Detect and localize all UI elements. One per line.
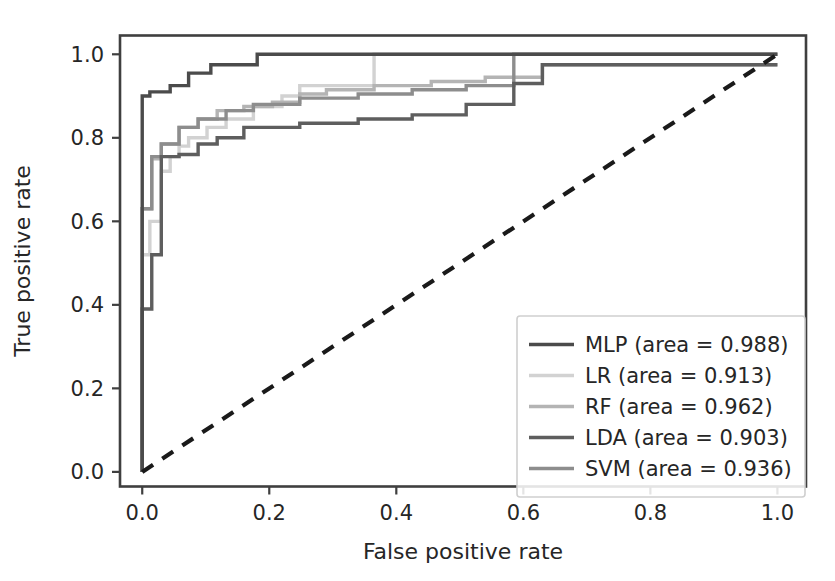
roc-plot-svg: 0.00.20.40.60.81.0 0.00.20.40.60.81.0 Fa… <box>0 0 835 581</box>
y-tick-label: 0.4 <box>71 293 104 317</box>
x-axis-title: False positive rate <box>363 539 563 564</box>
x-tick-label: 0.0 <box>126 501 159 525</box>
legend-label: LR (area = 0.913) <box>585 364 772 388</box>
legend[interactable]: MLP (area = 0.988)LR (area = 0.913)RF (a… <box>517 316 805 497</box>
x-tick-label: 0.2 <box>253 501 286 525</box>
x-tick-label: 0.8 <box>634 501 667 525</box>
x-tick-label: 1.0 <box>761 501 794 525</box>
y-tick-label: 0.2 <box>71 377 104 401</box>
legend-label: LDA (area = 0.903) <box>585 426 788 450</box>
roc-curve-figure: 0.00.20.40.60.81.0 0.00.20.40.60.81.0 Fa… <box>0 0 835 581</box>
x-tick-label: 0.6 <box>507 501 540 525</box>
y-tick-label: 0.0 <box>71 460 104 484</box>
y-tick-label: 1.0 <box>71 43 104 67</box>
x-tick-label: 0.4 <box>380 501 413 525</box>
y-tick-label: 0.6 <box>71 210 104 234</box>
y-axis-title-group: True positive rate <box>10 165 35 358</box>
y-axis-title: True positive rate <box>10 165 35 358</box>
y-tick-label: 0.8 <box>71 126 104 150</box>
legend-label: RF (area = 0.962) <box>585 395 773 419</box>
x-axis-title-group: False positive rate <box>363 539 563 564</box>
legend-label: SVM (area = 0.936) <box>585 457 792 481</box>
legend-label: MLP (area = 0.988) <box>585 333 788 357</box>
